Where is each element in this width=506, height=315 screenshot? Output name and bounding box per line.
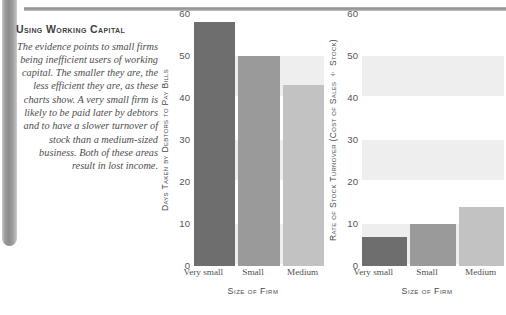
x-axis-category-label: Very small (348, 267, 399, 277)
bar[interactable] (283, 85, 324, 266)
plot-area (362, 14, 504, 266)
y-axis-tick-label: 50 (179, 51, 190, 61)
plot-wrapper: 0102030405060 (340, 14, 504, 266)
x-axis-category-label: Small (230, 267, 277, 277)
y-axis-tick-label: 60 (179, 9, 190, 19)
chart-days-taken: Days Taken by Debtors to Pay Bills 01020… (158, 14, 326, 304)
y-axis-tick-labels: 0102030405060 (340, 14, 358, 266)
x-axis-category-label: Medium (279, 267, 326, 277)
y-axis-tick-label: 30 (347, 135, 358, 145)
y-axis-title-label: Days Taken by Debtors to Pay Bills (160, 69, 170, 211)
bar-series (362, 14, 504, 266)
x-axis-category-labels: Very smallSmallMedium (180, 267, 326, 277)
bar[interactable] (238, 56, 279, 266)
plot-wrapper: 0102030405060 (172, 14, 324, 266)
y-axis-tick-labels: 0102030405060 (172, 14, 190, 266)
y-axis-tick-label: 10 (347, 219, 358, 229)
chart-stock-turnover: Rate of Stock Turnover (Cost of Sales ÷ … (326, 14, 506, 304)
article-heading: Using Working Capital (16, 24, 158, 36)
y-axis-tick-label: 20 (179, 177, 190, 187)
y-axis-tick-label: 10 (179, 219, 190, 229)
bar[interactable] (362, 237, 407, 266)
header-divider-rule (24, 7, 506, 11)
y-axis-tick-label: 30 (179, 135, 190, 145)
plot-area (194, 14, 324, 266)
article-text-block: Using Working Capital The evidence point… (16, 24, 158, 173)
x-axis-category-labels: Very smallSmallMedium (348, 267, 506, 277)
bar[interactable] (459, 207, 504, 266)
x-axis-title: Size of Firm (348, 286, 506, 296)
bar[interactable] (194, 22, 235, 266)
y-axis-tick-label: 60 (347, 9, 358, 19)
bar-series (194, 14, 324, 266)
article-body: The evidence points to small firms being… (16, 40, 158, 173)
y-axis-tick-label: 40 (179, 93, 190, 103)
bar[interactable] (410, 224, 455, 266)
x-axis-category-label: Medium (455, 267, 506, 277)
y-axis-tick-label: 20 (347, 177, 358, 187)
y-axis-title: Rate of Stock Turnover (Cost of Sales ÷ … (326, 14, 340, 266)
y-axis-title-label: Rate of Stock Turnover (Cost of Sales ÷ … (328, 39, 338, 241)
y-axis-tick-label: 50 (347, 51, 358, 61)
page-root: Using Working Capital The evidence point… (0, 0, 506, 315)
x-axis-category-label: Small (402, 267, 453, 277)
page-binding-decoration (2, 0, 17, 246)
x-axis-title: Size of Firm (180, 286, 326, 296)
y-axis-title: Days Taken by Debtors to Pay Bills (158, 14, 172, 266)
x-axis-category-label: Very small (180, 267, 227, 277)
y-axis-tick-label: 40 (347, 93, 358, 103)
